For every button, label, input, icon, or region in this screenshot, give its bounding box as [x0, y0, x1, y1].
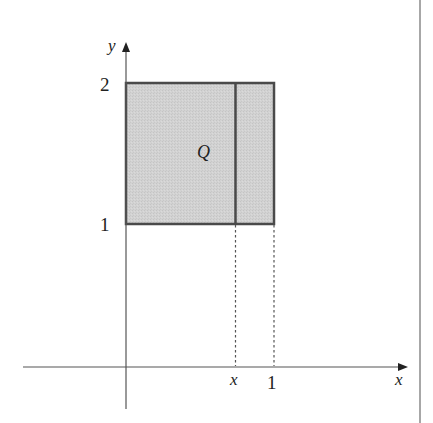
y-tick-1: 1	[100, 214, 110, 235]
x-tick-variable: x	[229, 370, 238, 389]
y-axis-arrow-icon	[122, 42, 130, 52]
y-tick-2: 2	[100, 74, 110, 95]
y-axis-label: y	[106, 36, 116, 55]
x-axis-label: x	[394, 370, 403, 389]
region-label-q: Q	[197, 142, 210, 162]
region-q-diagram: y 2 1 Q x 1 x	[0, 0, 433, 423]
x-tick-1: 1	[267, 372, 277, 393]
